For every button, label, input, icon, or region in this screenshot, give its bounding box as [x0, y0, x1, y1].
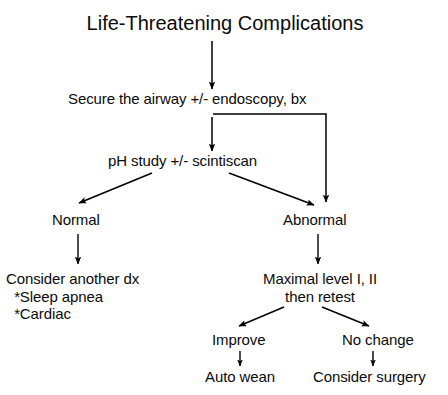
node-consider-surgery: Consider surgery	[313, 368, 426, 386]
edge-ph-study-to-abnormal	[229, 173, 314, 205]
node-auto-wean: Auto wean	[205, 368, 275, 386]
node-no-change: No change	[342, 331, 414, 349]
node-normal: Normal	[52, 211, 100, 229]
node-maximal-level: Maximal level I, II then retest	[250, 270, 390, 305]
figure-title: Life-Threatening Complications	[50, 12, 400, 36]
edge-maximal-level-to-improve	[239, 307, 284, 326]
node-ph-study: pH study +/- scintiscan	[108, 152, 257, 170]
edge-maximal-level-to-no-change	[322, 307, 369, 326]
node-secure-airway: Secure the airway +/- endoscopy, bx	[68, 90, 306, 108]
node-consider-another-dx: Consider another dx *Sleep apnea *Cardia…	[6, 270, 139, 323]
edge-ph-study-to-normal	[79, 173, 152, 203]
node-improve: Improve	[212, 331, 266, 349]
flowchart-canvas: Life-Threatening Complications Secure th…	[0, 0, 448, 395]
node-abnormal: Abnormal	[283, 211, 346, 229]
